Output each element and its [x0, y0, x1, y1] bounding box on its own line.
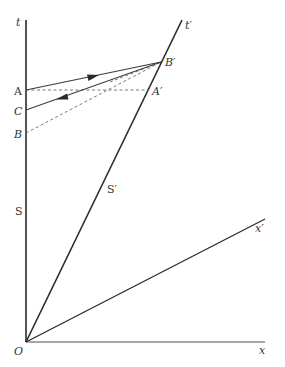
event-B-label: B [13, 128, 22, 141]
dashed-line-B-Bprime [26, 62, 161, 133]
x-axis-label: x [259, 344, 266, 357]
x-prime-axis-label: x′ [255, 222, 264, 235]
origin-label: O [14, 345, 23, 358]
spacetime-diagram: t t′ B′ A′ A C B S S′ x′ O x [0, 0, 285, 367]
x-prime-axis [26, 219, 265, 342]
event-C-label: C [14, 105, 23, 118]
worldline-S-label: S [15, 205, 23, 218]
t-prime-axis [26, 20, 182, 342]
event-Bprime-label: B′ [164, 56, 176, 69]
t-axis-label: t [16, 16, 21, 29]
event-A-label: A [13, 85, 23, 98]
arrow-return-icon [56, 94, 69, 100]
t-prime-axis-label: t′ [185, 19, 192, 32]
event-Aprime-label: A′ [151, 85, 163, 98]
worldline-Sprime-label: S′ [107, 183, 118, 196]
arrow-forward-icon [87, 75, 99, 82]
